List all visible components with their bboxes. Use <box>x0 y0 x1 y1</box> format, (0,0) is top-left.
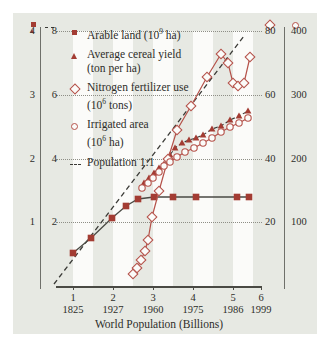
x-tick <box>261 286 262 290</box>
legend-text-part: Arable land (10 <box>87 29 159 41</box>
legend-item-cereal-yield: Average cereal yield (ton per ha) <box>70 48 220 75</box>
right-inner-tick-label: 20 <box>265 217 287 227</box>
x-tick <box>73 286 74 290</box>
legend-item-population: Population 1:1 <box>70 156 220 170</box>
legend-label-line2: (106 ha) <box>70 132 220 149</box>
right-inner-tick-label: 40 <box>265 154 287 164</box>
legend-text-part: ha) <box>163 29 181 41</box>
x-year-label: 1999 <box>241 304 281 315</box>
legend-label-line2: (106 tons) <box>70 95 220 112</box>
x-tick <box>233 286 234 290</box>
right-outer-tick-label: 200 <box>291 154 317 164</box>
legend-label: Population 1:1 <box>70 156 220 170</box>
legend-label-line2: (ton per ha) <box>70 62 220 76</box>
left-outer-tick-label: 3 <box>22 90 35 100</box>
x-year-label: 1825 <box>53 304 93 315</box>
right-inner-tick-label: 60 <box>265 90 287 100</box>
x-tick-label: 3 <box>133 292 173 303</box>
legend-label: Irrigated area <box>70 118 220 132</box>
right-outer-tick-label: 100 <box>291 217 317 227</box>
x-tick-label: 1 <box>53 292 93 303</box>
x-tick-label: 6 <box>241 292 281 303</box>
filled-square-icon <box>70 28 82 38</box>
right-outer-tick-label: 300 <box>291 90 317 100</box>
x-axis-line <box>56 286 262 288</box>
legend-text-part: (10 <box>87 135 102 147</box>
left-inner-tick-label: 8 <box>44 26 57 36</box>
right-outer-tick-label: 400 <box>291 26 317 36</box>
x-year-label: 1975 <box>173 304 213 315</box>
x-tick-label: 2 <box>93 292 133 303</box>
right-inner-tick-label: 80 <box>265 26 287 36</box>
legend-label: Arable land (109 ha) <box>70 25 220 42</box>
x-tick <box>193 286 194 290</box>
x-year-label: 1927 <box>93 304 133 315</box>
legend-text-part: ha) <box>106 135 124 147</box>
chart-legend: Arable land (109 ha) Average cereal yiel… <box>70 25 220 170</box>
left-outer-tick-label: 1 <box>22 217 35 227</box>
open-diamond-icon <box>70 84 82 94</box>
x-year-label: 1960 <box>133 304 173 315</box>
filled-triangle-icon <box>70 51 82 61</box>
x-tick-label: 4 <box>173 292 213 303</box>
x-tick <box>153 286 154 290</box>
series-arable-land <box>70 194 253 257</box>
dashed-line-icon <box>70 159 82 169</box>
left-axis-line <box>40 27 41 289</box>
legend-text-part: (10 <box>87 99 102 111</box>
legend-label: Average cereal yield <box>70 48 220 62</box>
left-outer-tick-label: 4 <box>22 26 35 36</box>
chart-figure: 4 3 2 1 8 6 4 2 80 60 40 20 400 300 200 … <box>0 0 330 347</box>
open-circle-icon <box>70 121 82 131</box>
left-inner-tick-label: 2 <box>44 217 57 227</box>
legend-item-arable-land: Arable land (109 ha) <box>70 25 220 42</box>
x-tick <box>113 286 114 290</box>
x-axis-title: World Population (Billions) <box>56 318 262 330</box>
legend-item-nitrogen-fertilizer: Nitrogen fertilizer use (106 tons) <box>70 81 220 112</box>
legend-item-irrigated-area: Irrigated area (106 ha) <box>70 118 220 149</box>
left-inner-tick-label: 4 <box>44 154 57 164</box>
legend-label: Nitrogen fertilizer use <box>70 81 220 95</box>
left-inner-tick-label: 6 <box>44 90 57 100</box>
left-outer-tick-label: 2 <box>22 154 35 164</box>
legend-text-part: tons) <box>106 99 132 111</box>
